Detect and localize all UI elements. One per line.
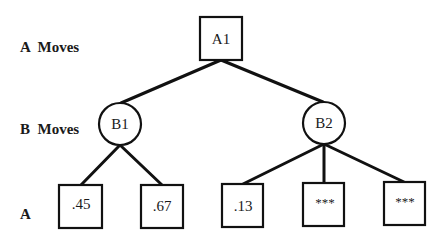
edge-b2-leaf5: [324, 144, 404, 182]
edge-b2-leaf3: [243, 144, 324, 184]
leaf-3-label: .13: [234, 198, 253, 214]
node-b2-label: B2: [315, 115, 333, 131]
leaf-1-label: .45: [72, 196, 91, 212]
node-a1-label: A1: [212, 31, 230, 47]
edge-a1-b2: [221, 60, 323, 102]
edge-a1-b1: [121, 60, 221, 103]
edge-b1-leaf2: [120, 145, 162, 185]
leaf-4-label: ***: [315, 195, 335, 210]
edge-b1-leaf1: [81, 145, 120, 185]
leaf-5-label: ***: [395, 194, 415, 209]
node-b1-label: B1: [111, 116, 129, 132]
game-tree: A1 B1 B2 .45 .67 .13 *** ***: [0, 0, 442, 240]
leaf-2-label: .67: [153, 198, 172, 214]
